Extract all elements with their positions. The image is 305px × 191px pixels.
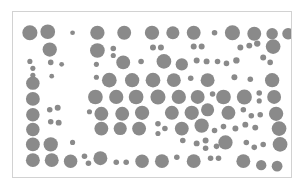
bubble-point [158,45,164,51]
bubble-point [43,42,57,56]
bubble-point [113,159,119,165]
bubble-point [180,138,186,144]
bubble-point [272,121,287,136]
bubble-point [218,135,232,149]
bubble-point [132,122,146,136]
bubble-point [222,106,236,120]
bubble-point [45,153,59,167]
bubble-point [70,30,75,35]
bubble-point [267,90,281,104]
bubble-point [224,61,230,67]
bubble-point [256,160,266,170]
bubble-point [272,161,283,172]
bubble-point [155,121,161,127]
bubble-point [232,126,238,132]
bubble-point [155,131,160,136]
bubble-point [265,73,279,87]
bubble-point [27,59,32,64]
bubble-point [167,73,181,87]
bubble-point [251,145,257,151]
bubble-point [49,74,54,79]
bubble-point [203,137,209,143]
bubble-point [194,119,208,133]
bubble-point [90,43,105,58]
bubble-point [254,40,260,46]
bubble-point [82,153,88,159]
bubble-point [155,154,169,168]
bubble-point [86,160,92,166]
bubble-point [88,90,103,105]
bubble-point [157,54,172,69]
bubble-point [214,144,220,150]
bubble-point [56,120,62,126]
bubble-point [110,46,116,52]
bubble-point [26,137,40,151]
bubble-point [194,57,200,63]
bubble-point [225,25,240,40]
bubble-point [187,154,201,168]
bubble-point [191,90,205,104]
bubble-point [87,109,92,114]
bubble-point [150,45,156,51]
bubble-point [215,59,221,65]
bubble-point [94,75,99,80]
bubble-point [22,25,37,40]
bubble-point [172,90,186,104]
bubble-point [266,39,281,54]
bubble-point [236,154,250,168]
bubble-point [114,122,127,135]
bubble-point [117,26,131,40]
bubble-point [176,58,188,70]
bubble-point [123,159,129,165]
bubble-point [212,30,218,36]
bubble-point [94,62,99,67]
bubble-point [246,43,252,49]
bubble-point [44,137,58,151]
bubble-point [188,75,194,81]
bubble-layer [13,12,291,177]
bubble-point [257,112,263,118]
bubble-point [260,54,266,60]
bubble-point [59,62,64,67]
bubble-point [187,26,201,40]
plot-frame [12,11,292,178]
bubble-point [208,155,214,161]
bubble-point [115,107,129,121]
bubble-point [201,103,214,116]
bubble-point [260,142,266,148]
bubble-point [244,140,250,146]
bubble-chart [0,0,305,191]
bubble-point [94,107,108,121]
bubble-point [93,151,107,165]
bubble-point [138,59,144,65]
bubble-point [233,57,239,63]
bubble-point [40,24,55,39]
bubble-point [135,154,149,167]
bubble-point [175,122,189,136]
bubble-point [237,45,243,51]
bubble-point [30,66,35,71]
bubble-point [102,73,117,88]
bubble-point [199,44,205,50]
bubble-point [129,90,144,105]
bubble-point [194,140,200,146]
bubble-point [249,113,255,119]
bubble-point [266,28,278,39]
bubble-point [165,106,179,120]
bubble-point [26,108,40,121]
bubble-point [109,90,123,104]
bubble-point [174,154,180,160]
bubble-point [210,91,216,97]
bubble-point [146,73,161,88]
bubble-point [162,126,168,132]
bubble-series [22,24,291,171]
bubble-point [185,106,199,120]
bubble-point [26,123,40,136]
bubble-point [273,137,288,152]
bubble-point [116,55,130,69]
bubble-point [90,26,104,40]
bubble-point [241,107,247,113]
bubble-point [26,153,40,167]
bubble-point [231,74,237,80]
bubble-point [267,60,273,66]
